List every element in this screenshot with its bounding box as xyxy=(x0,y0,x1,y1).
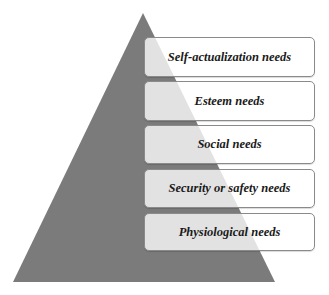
level-box-physiological: Physiological needs xyxy=(144,213,315,251)
level-box-security: Security or safety needs xyxy=(144,169,315,208)
level-label: Physiological needs xyxy=(179,225,281,240)
level-label: Self-actualization needs xyxy=(168,50,291,65)
level-label: Social needs xyxy=(197,137,261,152)
level-label: Security or safety needs xyxy=(169,181,291,196)
level-label: Esteem needs xyxy=(195,94,265,109)
level-box-esteem: Esteem needs xyxy=(144,81,315,121)
maslow-pyramid-diagram: Self-actualization needs Esteem needs So… xyxy=(0,0,329,295)
level-box-social: Social needs xyxy=(144,125,315,164)
level-box-self-actualization: Self-actualization needs xyxy=(144,37,315,77)
